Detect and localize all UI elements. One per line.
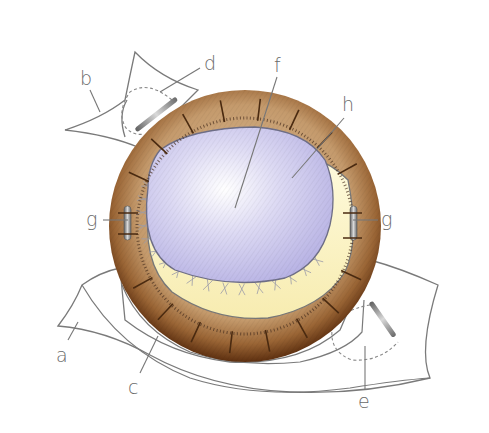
label-g-left: g	[86, 208, 97, 230]
label-f: f	[274, 54, 281, 76]
label-g-right: g	[381, 208, 392, 230]
label-a: a	[56, 344, 68, 366]
label-c: c	[128, 376, 138, 398]
label-d: d	[204, 52, 216, 74]
diagram-canvas: a b c d e f g g h	[0, 0, 489, 433]
leader-b	[90, 90, 100, 112]
label-e: e	[358, 390, 370, 412]
eye-surgery-diagram: a b c d e f g g h	[0, 0, 489, 433]
label-b: b	[80, 67, 92, 89]
label-h: h	[342, 93, 354, 115]
right-rod-icon	[350, 206, 357, 240]
membrane-hatch	[147, 127, 334, 283]
left-rod-icon	[124, 206, 131, 240]
